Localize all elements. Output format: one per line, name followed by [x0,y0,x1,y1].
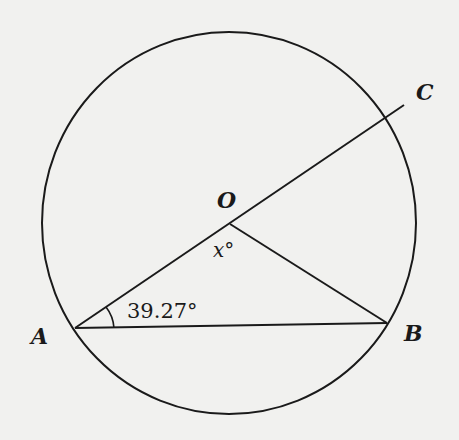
point-label-B: B [403,320,423,346]
angle-label-x: x° [213,238,234,262]
angle-label-A: 39.27° [127,299,198,323]
point-label-O: O [217,187,236,213]
segment-A-C [75,105,404,328]
circle-diagram: A B C O x° 39.27° [0,0,459,440]
segment-O-B [230,224,387,323]
point-label-A: A [29,323,48,349]
segment-A-B [75,323,387,328]
angle-arc-A [106,307,114,328]
point-label-C: C [416,79,434,105]
